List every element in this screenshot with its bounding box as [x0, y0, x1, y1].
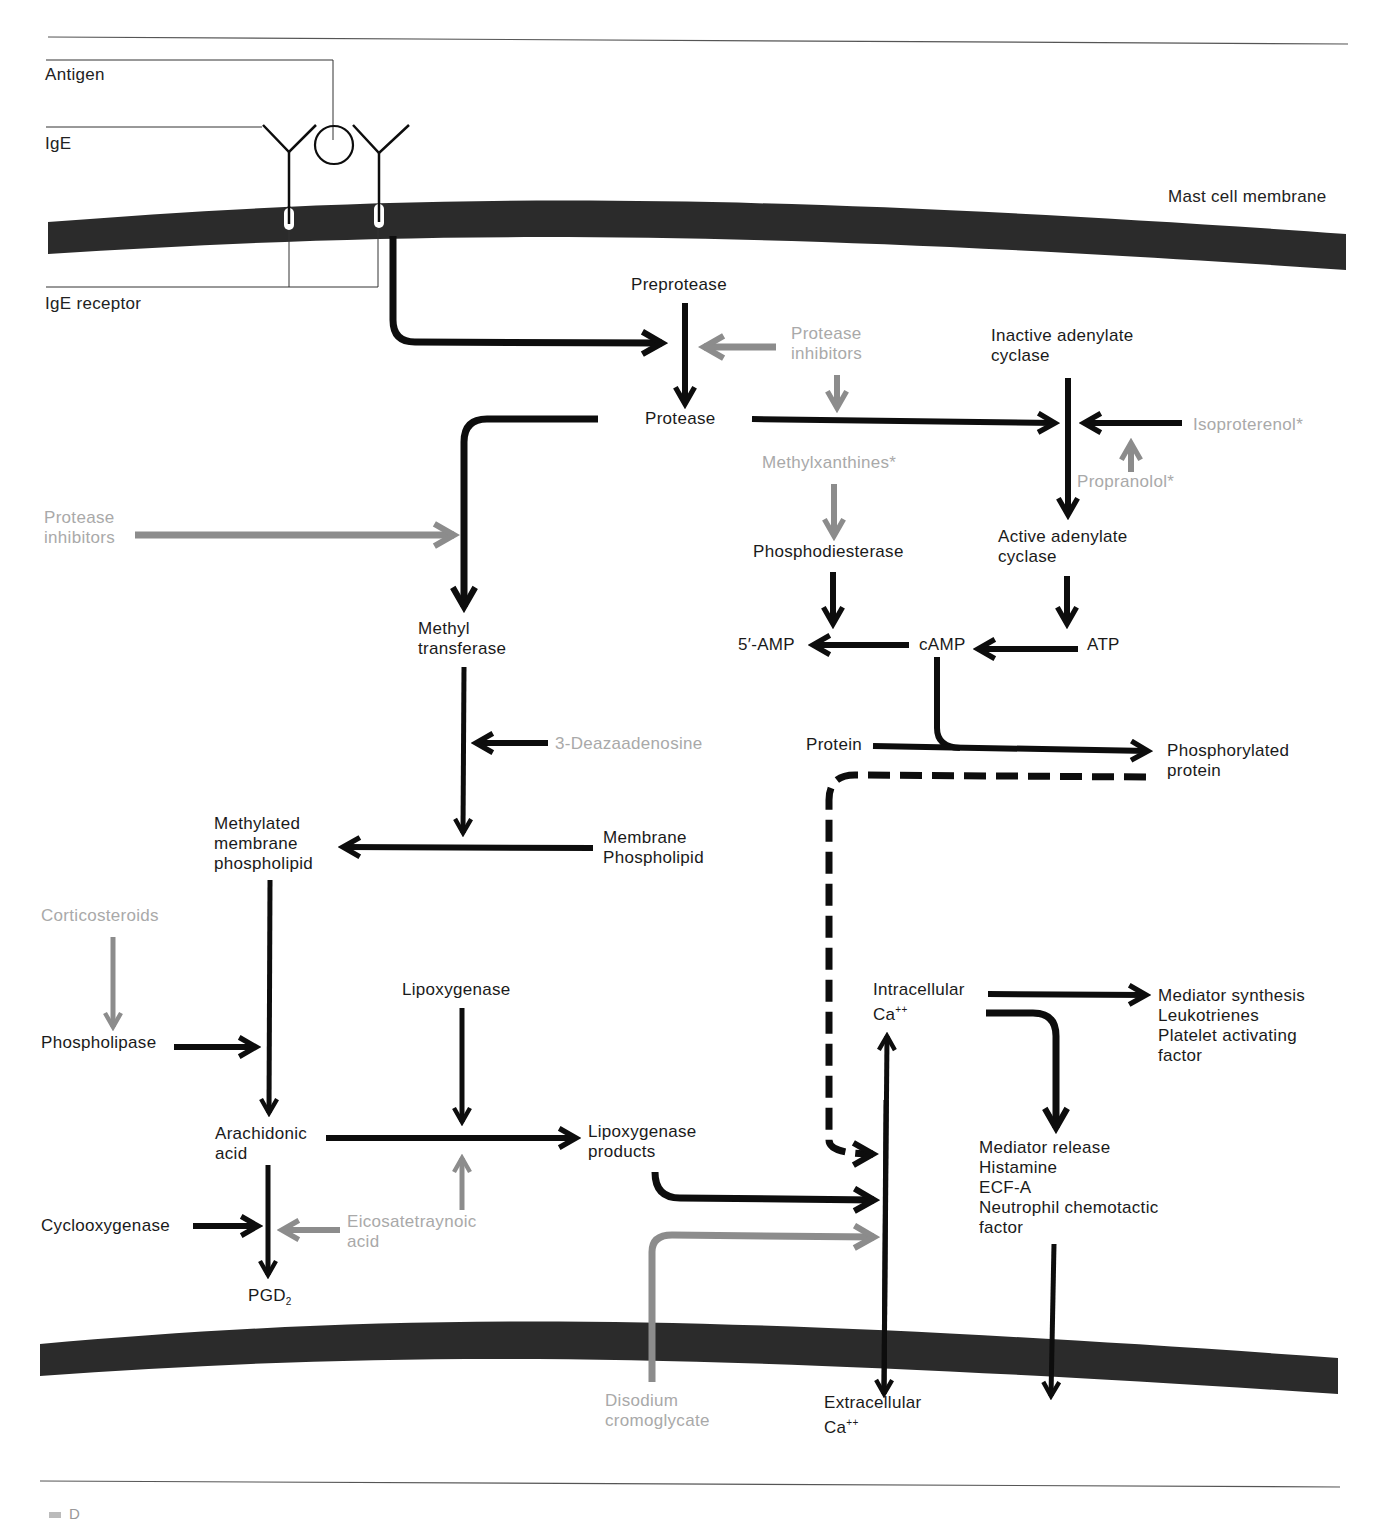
node-phosphorylated-protein: Phosphorylated protein [1167, 741, 1289, 781]
node-preprotease: Preprotease [631, 275, 727, 295]
node-arachidonic-acid: Arachidonic acid [215, 1124, 307, 1164]
node-lipoxygenase: Lipoxygenase [402, 980, 511, 1000]
node-lipoxygenase-products: Lipoxygenase products [588, 1122, 697, 1162]
node-protease: Protease [645, 409, 715, 429]
node-cyclooxygenase: Cyclooxygenase [41, 1216, 170, 1236]
node-5-amp: 5′-AMP [738, 635, 795, 655]
mast-cell-membrane-label: Mast cell membrane [1168, 187, 1326, 207]
node-intracellular-ca: Intracellular Ca++ [873, 980, 965, 1025]
drug-corticosteroids: Corticosteroids [41, 906, 159, 926]
drug-protease-inhibitors-top: Protease inhibitors [791, 324, 862, 364]
node-atp: ATP [1087, 635, 1120, 655]
antigen-label: Antigen [45, 65, 105, 85]
node-extracellular-ca: Extracellular Ca++ [824, 1393, 921, 1438]
footer-marker-icon [49, 1512, 61, 1518]
drug-propranolol: Propranolol* [1077, 472, 1174, 492]
node-membrane-phospholipid: Membrane Phospholipid [603, 828, 704, 868]
node-phospholipase: Phospholipase [41, 1033, 156, 1053]
node-phosphodiesterase: Phosphodiesterase [753, 542, 904, 562]
node-methylated-membrane-phospholipid: Methylated membrane phospholipid [214, 814, 313, 874]
node-mediator-release: Mediator release Histamine ECF-A Neutrop… [979, 1138, 1159, 1238]
node-protein: Protein [806, 735, 862, 755]
node-mediator-synthesis: Mediator synthesis Leukotrienes Platelet… [1158, 986, 1305, 1066]
node-methyl-transferase: Methyl transferase [418, 619, 506, 659]
top-membrane [48, 201, 1346, 270]
ige-receptor-label: IgE receptor [45, 294, 141, 314]
top-rule [48, 37, 1348, 44]
node-inactive-adenylate-cyclase: Inactive adenylate cyclase [991, 326, 1133, 366]
antigen-shape [315, 126, 353, 164]
drug-eicosatetraynoic-acid: Eicosatetraynoic acid [347, 1212, 477, 1252]
node-active-adenylate-cyclase: Active adenylate cyclase [998, 527, 1128, 567]
drug-methylxanthines: Methylxanthines* [762, 453, 896, 473]
footer-label: D [40, 1484, 80, 1523]
node-camp: cAMP [919, 635, 966, 655]
ige-label: IgE [45, 134, 71, 154]
drug-isoproterenol: Isoproterenol* [1193, 415, 1303, 435]
bottom-rule [40, 1481, 1340, 1487]
drug-3-deazaadenosine: 3-Deazaadenosine [555, 734, 703, 754]
drug-disodium-cromoglycate: Disodium cromoglycate [605, 1391, 710, 1431]
bottom-membrane [40, 1322, 1338, 1394]
drug-protease-inhibitors-left: Protease inhibitors [44, 508, 115, 548]
node-pgd2: PGD2 [248, 1286, 292, 1312]
